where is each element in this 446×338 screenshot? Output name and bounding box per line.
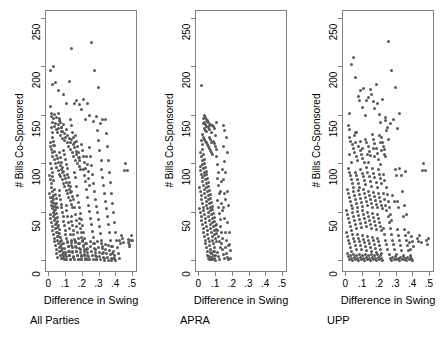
- data-point: [373, 195, 376, 198]
- data-point: [379, 121, 382, 124]
- data-point: [351, 233, 354, 236]
- data-point: [365, 249, 368, 252]
- data-point: [373, 142, 376, 145]
- data-point: [359, 197, 362, 200]
- y-tick-label: 50: [329, 212, 339, 240]
- data-point: [378, 196, 381, 199]
- data-point: [349, 225, 352, 228]
- data-point: [385, 186, 388, 189]
- data-point: [351, 211, 354, 214]
- data-point: [379, 141, 382, 144]
- data-point: [357, 214, 360, 217]
- data-point: [359, 244, 362, 247]
- data-point: [377, 168, 380, 171]
- data-point: [372, 147, 375, 150]
- data-point: [348, 242, 351, 245]
- data-point: [370, 185, 373, 188]
- data-point: [364, 138, 367, 141]
- data-point: [382, 173, 385, 176]
- data-point: [362, 238, 365, 241]
- data-point: [382, 227, 385, 230]
- data-point: [364, 196, 367, 199]
- data-point: [369, 154, 372, 157]
- data-point: [349, 200, 352, 203]
- data-point: [380, 149, 383, 152]
- data-point: [375, 147, 378, 150]
- data-point: [390, 219, 393, 222]
- data-point: [427, 237, 430, 240]
- data-point: [355, 155, 358, 158]
- data-point: [362, 87, 365, 90]
- data-point: [361, 106, 364, 109]
- data-point: [356, 210, 359, 213]
- data-point: [355, 227, 358, 230]
- data-point: [353, 194, 356, 197]
- data-point: [388, 206, 391, 209]
- data-point: [403, 204, 406, 207]
- data-point: [372, 239, 375, 242]
- data-point: [351, 207, 354, 210]
- data-point: [363, 161, 366, 164]
- data-point: [378, 173, 381, 176]
- data-point: [359, 168, 362, 171]
- data-point: [360, 201, 363, 204]
- data-point: [349, 174, 352, 177]
- data-point: [409, 248, 412, 251]
- data-point: [382, 192, 385, 195]
- data-point: [383, 198, 386, 201]
- data-point: [374, 199, 377, 202]
- data-point: [349, 140, 352, 143]
- data-point: [378, 221, 381, 224]
- data-point: [368, 219, 371, 222]
- data-point: [352, 147, 355, 150]
- data-point: [375, 203, 378, 206]
- plot-area: [342, 10, 434, 272]
- data-point: [404, 170, 407, 173]
- data-point: [353, 219, 356, 222]
- data-point: [380, 204, 383, 207]
- data-point: [359, 140, 362, 143]
- data-point: [348, 196, 351, 199]
- data-point: [390, 69, 393, 72]
- data-point: [361, 147, 364, 150]
- data-point: [348, 171, 351, 174]
- data-point: [381, 259, 384, 262]
- data-point: [373, 243, 376, 246]
- data-point: [398, 112, 401, 115]
- data-point: [355, 174, 358, 177]
- data-point: [369, 198, 372, 201]
- data-point: [352, 215, 355, 218]
- data-point: [352, 237, 355, 240]
- data-point: [358, 193, 361, 196]
- data-point: [361, 234, 364, 237]
- data-point: [399, 244, 402, 247]
- y-tick-label: 150: [329, 115, 339, 143]
- data-point: [360, 226, 363, 229]
- data-point: [350, 229, 353, 232]
- data-point: [375, 228, 378, 231]
- data-point: [376, 102, 379, 105]
- data-point: [356, 159, 359, 162]
- data-point: [350, 161, 353, 164]
- data-point: [363, 241, 366, 244]
- data-point: [377, 240, 380, 243]
- data-point: [362, 175, 365, 178]
- data-point: [380, 182, 383, 185]
- data-point: [403, 228, 406, 231]
- data-point: [347, 192, 350, 195]
- data-point: [347, 217, 350, 220]
- data-point: [357, 95, 360, 98]
- data-point: [359, 222, 362, 225]
- data-point: [348, 136, 351, 139]
- data-point: [356, 233, 359, 236]
- data-point: [367, 96, 370, 99]
- data-point: [411, 240, 414, 243]
- data-point: [386, 248, 389, 251]
- data-point: [358, 99, 361, 102]
- data-point: [387, 200, 390, 203]
- data-point: [386, 193, 389, 196]
- data-point: [367, 161, 370, 164]
- data-point: [363, 217, 366, 220]
- data-point: [420, 241, 423, 244]
- data-point: [377, 158, 380, 161]
